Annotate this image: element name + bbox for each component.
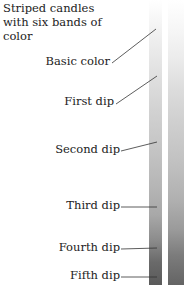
leader-fourth-dip	[121, 248, 157, 249]
candle-diagram: Striped candles with six bands of color …	[0, 0, 184, 285]
leader-second-dip	[121, 142, 157, 151]
leader-first-dip	[116, 76, 157, 104]
leader-lines	[0, 0, 184, 285]
leader-basic-color	[112, 29, 156, 63]
